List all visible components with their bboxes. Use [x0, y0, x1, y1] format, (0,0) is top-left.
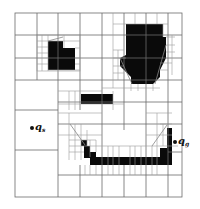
goal-label-subscript: g	[185, 140, 189, 147]
quadtree-diagram	[0, 0, 200, 209]
start-label-subscript: s	[42, 126, 45, 133]
goal-label-symbol: q	[178, 135, 185, 146]
obstacle-middle-bar	[81, 94, 113, 104]
start-point-dot	[30, 126, 34, 130]
start-label: qs	[35, 122, 45, 135]
goal-label: qg	[178, 136, 189, 149]
background	[0, 0, 200, 209]
start-label-symbol: q	[35, 121, 42, 132]
goal-point-dot	[173, 140, 177, 144]
